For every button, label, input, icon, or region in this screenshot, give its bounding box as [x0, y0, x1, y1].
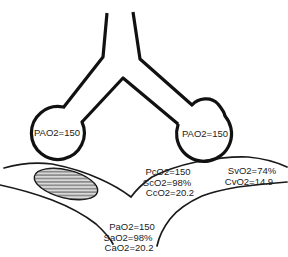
end-capillary-line-2: ScO2=98%: [143, 177, 192, 188]
end-capillary-label: PcO2=150 ScO2=98% CcO2=20.2: [143, 166, 194, 198]
left-alveolus-label: PAO2=150: [34, 127, 80, 138]
diagram-canvas: PAO2=150 PAO2=150 PcO2=150 ScO2=98% CcO2…: [0, 0, 288, 257]
physiology-diagram: PAO2=150 PAO2=150 PcO2=150 ScO2=98% CcO2…: [0, 0, 288, 257]
airway-right-outer-wall: [133, 12, 225, 116]
carina-inner-walls: [82, 78, 178, 124]
mixed-venous-line-2: CvO2=14.9: [225, 176, 273, 187]
mixed-venous-line-1: SvO2=74%: [228, 165, 277, 176]
vessel-occlusion: [30, 163, 102, 206]
arterial-line-3: CaO2=20.2: [105, 242, 154, 253]
arterial-line-1: PaO2=150: [109, 221, 155, 232]
right-alveolus-label: PAO2=150: [182, 128, 228, 139]
end-capillary-line-3: CcO2=20.2: [146, 187, 194, 198]
arterial-label: PaO2=150 SaO2=98% CaO2=20.2: [104, 221, 155, 253]
airway-left-outer-wall: [63, 13, 107, 108]
end-capillary-line-1: PcO2=150: [145, 166, 190, 177]
mixed-venous-label: SvO2=74% CvO2=14.9: [225, 165, 277, 187]
